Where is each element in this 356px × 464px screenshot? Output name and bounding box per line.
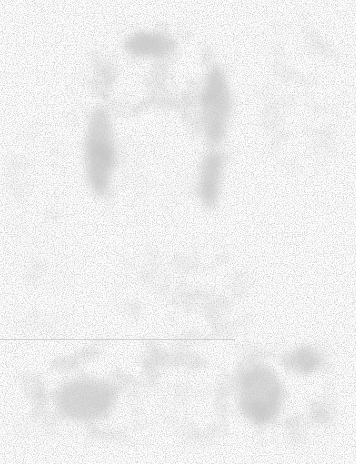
portrait-svg xyxy=(0,0,356,464)
faded-portrait-image: Faded, heavily noised grayscale portrait… xyxy=(0,0,356,464)
noise-grain xyxy=(0,0,356,464)
